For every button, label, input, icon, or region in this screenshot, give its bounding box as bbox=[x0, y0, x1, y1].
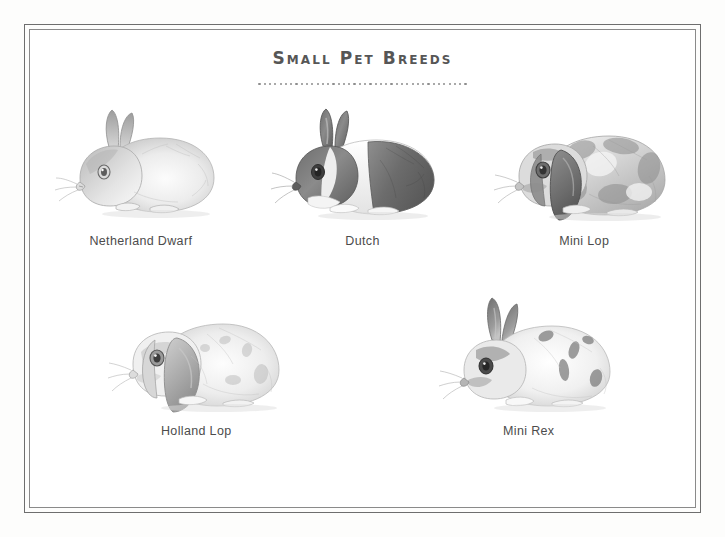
breed-label: Dutch bbox=[345, 234, 379, 248]
divider-dot bbox=[295, 83, 297, 85]
divider-dot bbox=[380, 83, 382, 85]
dotted-divider bbox=[30, 80, 695, 88]
divider-dot bbox=[459, 83, 461, 85]
breed-label: Mini Rex bbox=[503, 424, 554, 438]
divider-dot bbox=[390, 83, 392, 85]
divider-dot bbox=[280, 83, 282, 85]
divider-dot bbox=[359, 83, 361, 85]
holland-lop-rabbit-sketch-icon bbox=[101, 292, 291, 420]
poster-content: Small Pet Breeds bbox=[30, 30, 695, 507]
divider-dot bbox=[417, 83, 419, 85]
divider-dot bbox=[301, 83, 303, 85]
page-title: Small Pet Breeds bbox=[30, 48, 695, 68]
breed-cell: Mini Lop bbox=[473, 102, 695, 248]
divider-dot bbox=[269, 83, 271, 85]
divider-dot bbox=[369, 83, 371, 85]
divider-dot bbox=[364, 83, 366, 85]
divider-dot bbox=[433, 83, 435, 85]
breed-label: Mini Lop bbox=[559, 234, 609, 248]
poster-page: Small Pet Breeds bbox=[0, 0, 725, 537]
divider-dot bbox=[443, 83, 445, 85]
divider-dot bbox=[274, 83, 276, 85]
divider-dot bbox=[327, 83, 329, 85]
divider-dot bbox=[343, 83, 345, 85]
divider-dot bbox=[317, 83, 319, 85]
divider-dot bbox=[285, 83, 287, 85]
divider-dot bbox=[306, 83, 308, 85]
mini-rex-rabbit-sketch-icon bbox=[434, 292, 624, 420]
divider-dot bbox=[438, 83, 440, 85]
divider-dot bbox=[406, 83, 408, 85]
breed-row-top: Netherland Dwarf bbox=[30, 102, 695, 248]
divider-dot bbox=[427, 83, 429, 85]
divider-dot bbox=[375, 83, 377, 85]
divider-dot bbox=[422, 83, 424, 85]
divider-dot bbox=[454, 83, 456, 85]
divider-dot bbox=[464, 83, 466, 85]
divider-dot bbox=[258, 83, 260, 85]
breed-row-bottom: Holland Lop bbox=[30, 292, 695, 438]
divider-dot bbox=[264, 83, 266, 85]
netherland-dwarf-rabbit-sketch-icon bbox=[46, 102, 236, 230]
dutch-rabbit-sketch-icon bbox=[268, 102, 458, 230]
divider-dot bbox=[353, 83, 355, 85]
divider-dot bbox=[332, 83, 334, 85]
breed-cell: Dutch bbox=[252, 102, 474, 248]
mini-lop-rabbit-sketch-icon bbox=[489, 102, 679, 230]
breed-cell: Mini Rex bbox=[363, 292, 696, 438]
divider-dot bbox=[385, 83, 387, 85]
divider-dot bbox=[412, 83, 414, 85]
divider-dot bbox=[449, 83, 451, 85]
divider-dots bbox=[258, 83, 466, 85]
breed-label: Netherland Dwarf bbox=[89, 234, 192, 248]
breed-label: Holland Lop bbox=[161, 424, 232, 438]
divider-dot bbox=[348, 83, 350, 85]
divider-dot bbox=[338, 83, 340, 85]
breed-cell: Netherland Dwarf bbox=[30, 102, 252, 248]
divider-dot bbox=[290, 83, 292, 85]
divider-dot bbox=[322, 83, 324, 85]
divider-dot bbox=[396, 83, 398, 85]
divider-dot bbox=[401, 83, 403, 85]
breed-cell: Holland Lop bbox=[30, 292, 363, 438]
divider-dot bbox=[311, 83, 313, 85]
